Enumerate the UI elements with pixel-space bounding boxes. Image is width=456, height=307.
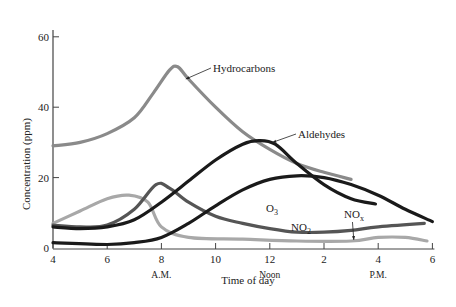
x-tick-label: 2: [321, 253, 327, 265]
x-tick-label: 10: [210, 253, 222, 265]
pollutant-concentration-chart: 02040604681012246A.M.NoonP.M. Hydrocarbo…: [0, 0, 456, 307]
annotations: Hydrocarbons Aldehydes O3 NO2 NOx Concen…: [20, 62, 364, 286]
label-nox: NOx: [344, 208, 364, 223]
y-tick-label: 40: [38, 101, 50, 113]
label-aldehydes: Aldehydes: [298, 128, 345, 140]
x-tick-label: 4: [375, 253, 381, 265]
label-o3: O3: [266, 202, 278, 217]
annotation-arrow: [273, 134, 296, 142]
series-lines: [53, 66, 432, 244]
x-sublabel: A.M.: [151, 270, 171, 280]
x-tick-label: 6: [104, 253, 110, 265]
x-tick-label: 8: [159, 253, 165, 265]
series-line-o3: [53, 176, 432, 245]
series-line-hydrocarbons: [53, 66, 351, 179]
x-tick-label: 12: [264, 253, 275, 265]
x-tick-label: 4: [50, 253, 56, 265]
chart-canvas: 02040604681012246A.M.NoonP.M. Hydrocarbo…: [0, 0, 456, 307]
label-hydrocarbons: Hydrocarbons: [213, 62, 275, 74]
x-tick-label: 6: [430, 253, 436, 265]
x-sublabel: P.M.: [369, 270, 386, 280]
y-tick-label: 20: [38, 172, 50, 184]
y-tick-label: 0: [44, 242, 50, 254]
y-axis-title: Concentration (ppm): [20, 118, 33, 210]
annotation-arrow: [186, 68, 211, 79]
arrowhead-icon: [273, 140, 277, 143]
y-tick-label: 60: [38, 31, 50, 43]
x-axis-title: Time of day: [221, 274, 275, 286]
